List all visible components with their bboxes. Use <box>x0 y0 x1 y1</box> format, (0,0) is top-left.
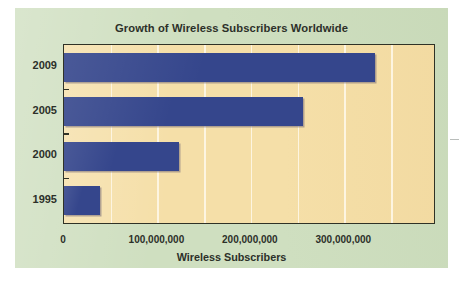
bar-series <box>64 45 434 223</box>
x-tick-label-1: 100,000,000 <box>129 234 185 245</box>
chart-title: Growth of Wireless Subscribers Worldwide <box>15 22 448 34</box>
y-tick-label-1995: 1995 <box>11 193 57 205</box>
x-tick-label-0: 0 <box>60 234 66 245</box>
y-tick-label-2000: 2000 <box>11 148 57 160</box>
y-tick-label-2009: 2009 <box>11 59 57 71</box>
plot-area <box>63 44 435 224</box>
y-tick-mark <box>64 178 69 180</box>
bar-2009 <box>64 53 375 82</box>
x-tick-label-2: 200,000,000 <box>222 234 278 245</box>
bar-2000 <box>64 142 179 171</box>
y-tick-mark <box>64 89 69 91</box>
y-tick-label-2005: 2005 <box>11 104 57 116</box>
bar-1995 <box>64 186 100 215</box>
x-tick-label-3: 300,000,000 <box>315 234 371 245</box>
page-margin-rule <box>450 139 459 140</box>
figure-panel: Growth of Wireless Subscribers Worldwide… <box>15 8 448 268</box>
bar-2005 <box>64 97 303 126</box>
x-axis-title: Wireless Subscribers <box>15 251 448 263</box>
y-tick-mark <box>64 133 69 135</box>
